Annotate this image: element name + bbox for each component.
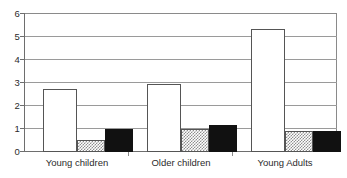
bar-young-children-series-2 — [77, 140, 105, 152]
y-tick-label-6: 6 — [0, 9, 20, 19]
plot-area — [25, 13, 337, 152]
bar-older-children-series-1 — [147, 84, 181, 152]
y-axis: 6 5 4 3 2 1 0 — [0, 0, 20, 178]
y-tick-label-0: 0 — [0, 147, 20, 157]
y-tick-label-5: 5 — [0, 32, 20, 42]
x-tick-label-young-children: Young children — [25, 158, 129, 168]
bar-young-children-series-3 — [105, 129, 133, 152]
bar-young-adults-series-3 — [313, 131, 341, 152]
bar-older-children-series-3 — [209, 125, 237, 152]
bar-young-children-series-1 — [43, 89, 77, 152]
x-tick-label-older-children: Older children — [129, 158, 233, 168]
bar-young-adults-series-1 — [251, 29, 285, 152]
y-tick-label-3: 3 — [0, 78, 20, 88]
gridline-3 — [25, 82, 337, 83]
category-separator-1 — [128, 152, 129, 156]
bar-chart: 6 5 4 3 2 1 0 Youn — [0, 0, 347, 178]
gridline-4 — [25, 59, 337, 60]
bar-young-adults-series-2 — [285, 131, 313, 152]
y-tick-label-1: 1 — [0, 124, 20, 134]
y-tick-label-4: 4 — [0, 55, 20, 65]
y-tick-label-2: 2 — [0, 101, 20, 111]
gridline-5 — [25, 36, 337, 37]
x-tick-label-young-adults: Young Adults — [233, 158, 337, 168]
category-separator-2 — [232, 152, 233, 156]
bar-older-children-series-2 — [181, 129, 209, 152]
